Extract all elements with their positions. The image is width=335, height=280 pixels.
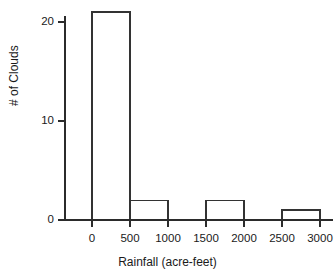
histogram-bar [206,200,244,220]
x-axis-tick-label: 0 [89,233,95,245]
x-axis-title: Rainfall (acre-feet) [0,256,335,268]
x-axis-tick-label: 500 [120,233,139,245]
y-axis-tick-label: 20 [28,16,54,28]
x-axis-tick-label: 2500 [269,233,295,245]
y-axis-title: # of Clouds [8,88,20,106]
histogram-bars-group [62,12,333,220]
histogram-bar [92,12,130,220]
x-axis-tick-label: 3000 [307,233,333,245]
histogram-bar [130,200,168,220]
histogram-bar [282,210,320,220]
x-axis-tick-label: 1500 [193,233,219,245]
x-axis-tick-label: 2000 [231,233,257,245]
x-axis-tick-label: 1000 [155,233,181,245]
y-axis-tick-label: 0 [28,214,54,226]
histogram-figure: 01020 050010001500200025003000 # of Clou… [0,0,335,280]
y-axis-tick-label: 10 [28,115,54,127]
